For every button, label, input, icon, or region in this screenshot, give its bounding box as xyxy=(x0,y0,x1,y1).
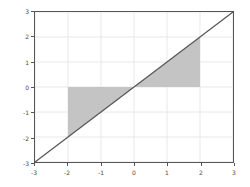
ytick-label-1: 1 xyxy=(10,59,29,66)
ytick-label-3: 3 xyxy=(10,8,29,15)
ytick-label-neg3: -3 xyxy=(10,160,29,167)
xtick-mark xyxy=(67,163,68,166)
xtick-label-neg2: -2 xyxy=(57,169,77,176)
ytick-mark xyxy=(31,112,34,113)
xtick-mark xyxy=(34,163,35,166)
xtick-label-neg1: -1 xyxy=(91,169,111,176)
plot-axes-area xyxy=(34,11,234,163)
xtick-mark xyxy=(134,163,135,166)
xtick-label-3: 3 xyxy=(224,169,244,176)
ytick-label-neg1: -1 xyxy=(10,109,29,116)
xtick-mark xyxy=(201,163,202,166)
ytick-label-neg2: -2 xyxy=(10,135,29,142)
ytick-mark xyxy=(31,62,34,63)
plot-svg xyxy=(35,12,233,162)
xtick-mark xyxy=(167,163,168,166)
xtick-label-0: 0 xyxy=(124,169,144,176)
ytick-mark xyxy=(31,138,34,139)
xtick-label-2: 2 xyxy=(191,169,211,176)
ytick-label-2: 2 xyxy=(10,33,29,40)
figure-canvas: 3 2 1 0 -1 -2 -3 -3 -2 -1 0 1 2 3 xyxy=(0,0,250,187)
ytick-mark xyxy=(31,36,34,37)
ytick-label-0: 0 xyxy=(10,84,29,91)
xtick-mark xyxy=(101,163,102,166)
ytick-mark xyxy=(31,87,34,88)
xtick-label-1: 1 xyxy=(157,169,177,176)
xtick-mark xyxy=(234,163,235,166)
xtick-label-neg3: -3 xyxy=(24,169,44,176)
ytick-mark xyxy=(31,11,34,12)
